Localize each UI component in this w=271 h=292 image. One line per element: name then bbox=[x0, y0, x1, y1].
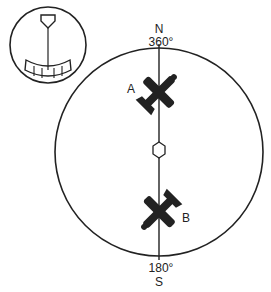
compass-diagram: N 360° 180° S A B bbox=[0, 0, 271, 292]
south-heading: 180° bbox=[149, 261, 174, 275]
aircraft-b-label: B bbox=[182, 211, 190, 225]
biplane-icon bbox=[129, 183, 188, 242]
heading-indicator-dial-icon bbox=[10, 7, 86, 83]
biplane-icon bbox=[130, 62, 189, 121]
north-letter: N bbox=[155, 22, 164, 36]
aircraft-a-label: A bbox=[127, 82, 135, 96]
north-heading: 360° bbox=[149, 35, 174, 49]
hexagon-icon bbox=[153, 142, 165, 158]
south-letter: S bbox=[155, 275, 163, 289]
